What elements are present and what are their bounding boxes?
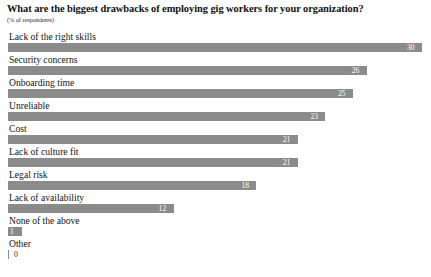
bar-value-label: 25 (338, 89, 346, 98)
bar-category-label: Cost (8, 122, 431, 135)
bar-fill (8, 89, 353, 98)
bar-category-label: Lack of culture fit (8, 145, 431, 158)
bar-value-label: 12 (159, 204, 167, 213)
bar-category-label: Onboarding time (8, 76, 431, 89)
plot-area: Lack of the right skills30Security conce… (0, 30, 431, 260)
bar-row: Unreliable23 (8, 99, 431, 122)
bar-track: 1 (8, 227, 431, 236)
bar-value-label: 1 (10, 227, 14, 236)
bar-category-label: Other (8, 237, 431, 250)
bar-row: Lack of availability12 (8, 191, 431, 214)
bar-track: 18 (8, 181, 431, 190)
bar-row: Security concerns26 (8, 53, 431, 76)
bar-row: Cost21 (8, 122, 431, 145)
bar-track: 12 (8, 204, 431, 213)
bar-track: 21 (8, 158, 431, 167)
bar-category-label: Lack of the right skills (8, 30, 431, 43)
bar-track: 23 (8, 112, 431, 121)
bar-value-label: 23 (310, 112, 318, 121)
chart-header: What are the biggest drawbacks of employ… (0, 3, 431, 24)
bar-category-label: Lack of availability (8, 191, 431, 204)
bar-fill (8, 112, 325, 121)
bar-category-label: Legal risk (8, 168, 431, 181)
bar-value-label: 26 (352, 66, 360, 75)
bar-track: 26 (8, 66, 431, 75)
bar-track: 0 (8, 250, 431, 259)
chart-subtitle: (% of respondents) (7, 16, 425, 24)
bar-row: Other0 (8, 237, 431, 260)
bar-fill (8, 158, 298, 167)
bar-fill (8, 181, 256, 190)
bar-fill (8, 204, 174, 213)
bar-category-label: Unreliable (8, 99, 431, 112)
bar-value-label: 18 (241, 181, 249, 190)
bar-value-label: 21 (283, 135, 291, 144)
bar-row: Lack of the right skills30 (8, 30, 431, 53)
bar-row: None of the above1 (8, 214, 431, 237)
bar-fill (8, 135, 298, 144)
bar-fill (8, 66, 367, 75)
bar-row: Legal risk18 (8, 168, 431, 191)
bar-track: 30 (8, 43, 431, 52)
bar-row: Onboarding time25 (8, 76, 431, 99)
bar-track: 25 (8, 89, 431, 98)
axis-tick (8, 250, 9, 259)
bar-category-label: Security concerns (8, 53, 431, 66)
bar-row: Lack of culture fit21 (8, 145, 431, 168)
bar-track: 21 (8, 135, 431, 144)
bar-value-label: 21 (283, 158, 291, 167)
bar-fill (8, 43, 422, 52)
bar-category-label: None of the above (8, 214, 431, 227)
chart-title: What are the biggest drawbacks of employ… (7, 3, 425, 15)
bar-chart: What are the biggest drawbacks of employ… (0, 0, 431, 277)
bar-value-label: 30 (407, 43, 415, 52)
bar-value-label: 0 (14, 250, 18, 259)
